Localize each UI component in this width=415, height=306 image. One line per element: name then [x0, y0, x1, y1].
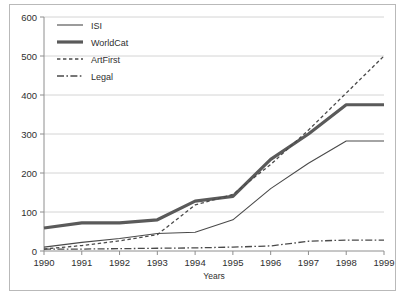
series-line-artfirst	[44, 56, 384, 249]
series-layer	[44, 56, 384, 249]
y-tick-label: 100	[21, 207, 37, 218]
legend-label-isi: ISI	[91, 21, 102, 31]
x-axis-tick-labels: 1990199119921993199419951996199719981999	[33, 257, 394, 268]
y-axis-tick-labels: 0100200300400500600	[21, 12, 37, 257]
x-tick-label: 1993	[147, 257, 168, 268]
x-tick-label: 1995	[222, 257, 243, 268]
x-tick-label: 1998	[336, 257, 357, 268]
line-chart: 0100200300400500600 19901991199219931994…	[0, 0, 415, 306]
y-tick-label: 400	[21, 90, 37, 101]
legend-label-artfirst: ArtFirst	[91, 55, 120, 65]
y-tick-label: 300	[21, 129, 37, 140]
legend-label-worldcat: WorldCat	[91, 38, 129, 48]
legend-label-legal: Legal	[91, 72, 113, 82]
x-tick-label: 1991	[71, 257, 92, 268]
x-tick-label: 1992	[109, 257, 130, 268]
x-tick-label: 1997	[298, 257, 319, 268]
x-axis-title: Years	[203, 271, 224, 281]
x-tick-label: 1990	[33, 257, 54, 268]
y-tick-label: 600	[21, 12, 37, 23]
x-tick-label: 1994	[185, 257, 206, 268]
y-tick-label: 200	[21, 168, 37, 179]
x-tick-label: 1999	[373, 257, 394, 268]
series-line-worldcat	[44, 105, 384, 228]
x-tick-label: 1996	[260, 257, 281, 268]
y-tick-label: 0	[32, 246, 37, 257]
chart-legend: ISIWorldCatArtFirstLegal	[57, 21, 129, 82]
chart-svg: 0100200300400500600 19901991199219931994…	[0, 0, 415, 306]
y-tick-label: 500	[21, 51, 37, 62]
tick-marks	[40, 17, 384, 255]
series-line-isi	[44, 141, 384, 247]
